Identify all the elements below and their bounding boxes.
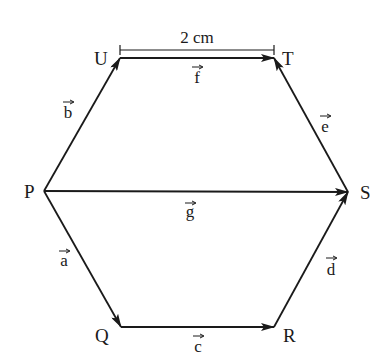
- svg-text:f: f: [194, 68, 200, 87]
- svg-text:e: e: [321, 117, 329, 136]
- svg-text:a: a: [60, 251, 68, 270]
- vector-label-b: b: [63, 100, 74, 122]
- vector-label-e: e: [320, 114, 331, 136]
- svg-text:b: b: [64, 103, 73, 122]
- svg-text:c: c: [194, 337, 202, 356]
- vector-label-a: a: [59, 249, 70, 270]
- vertex-label-u: U: [94, 48, 108, 69]
- vertex-label-t: T: [282, 48, 294, 69]
- vector-b: [44, 58, 120, 191]
- vector-e: [274, 58, 348, 192]
- svg-text:g: g: [186, 202, 195, 221]
- vector-label-c: c: [193, 334, 204, 356]
- dimension-line-2cm: 2 cm: [120, 28, 274, 55]
- vector-label-g: g: [185, 201, 196, 221]
- vector-g: [44, 191, 348, 192]
- vector-label-f: f: [192, 65, 203, 87]
- svg-text:d: d: [327, 260, 336, 279]
- vertex-label-r: R: [283, 325, 296, 346]
- hexagon-vector-diagram: 2 cm P U T S R Q b f e: [0, 0, 383, 361]
- vector-label-d: d: [326, 256, 337, 279]
- vertex-label-q: Q: [95, 325, 109, 346]
- vector-d: [274, 192, 348, 327]
- vector-a: [44, 191, 121, 327]
- vertex-label-p: P: [24, 181, 35, 202]
- dimension-label: 2 cm: [180, 28, 214, 47]
- vertex-label-s: S: [360, 182, 371, 203]
